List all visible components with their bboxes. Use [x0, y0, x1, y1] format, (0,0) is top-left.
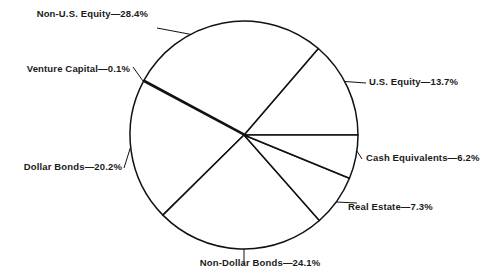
leader-line-dollar-bonds [124, 147, 131, 168]
pie-chart-svg [0, 0, 497, 280]
leader-line-venture-capital [133, 67, 143, 81]
pie-chart-figure: Non-U.S. Equity—28.4% Venture Capital—0.… [0, 0, 497, 280]
slice-label-non-us-equity: Non-U.S. Equity—28.4% [0, 9, 148, 19]
leader-line-non-us-equity [157, 28, 190, 34]
slice-label-real-estate: Real Estate—7.3% [348, 202, 488, 212]
pie-wedge-group [130, 21, 358, 249]
slice-label-non-dollar-bonds: Non-Dollar Bonds—24.1% [180, 258, 340, 268]
leader-line-cash-equivalents [357, 151, 362, 159]
slice-label-cash-equivalents: Cash Equivalents—6.2% [366, 153, 497, 163]
leader-line-us-equity [345, 81, 366, 83]
slice-label-dollar-bonds: Dollar Bonds—20.2% [0, 162, 122, 172]
slice-label-us-equity: U.S. Equity—13.7% [369, 77, 497, 87]
slice-label-venture-capital: Venture Capital—0.1% [0, 64, 130, 74]
